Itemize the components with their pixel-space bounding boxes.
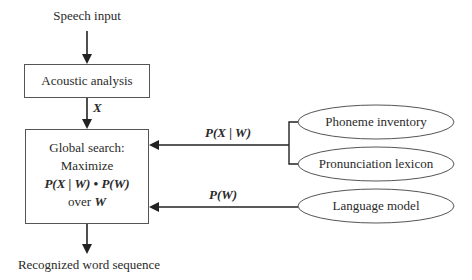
edge-pxw-label: P(X | W) — [205, 125, 251, 141]
edge-x-label: X — [93, 100, 102, 116]
global-search-line1: Global search: — [26, 140, 148, 156]
over-text: over — [68, 194, 91, 209]
acoustic-analysis-box: Acoustic analysis — [24, 64, 150, 98]
edge-pw-label: P(W) — [209, 187, 237, 203]
global-search-box: Global search: Maximize P(X | W) • P(W) … — [25, 129, 149, 224]
global-search-formula: P(X | W) • P(W) — [26, 176, 148, 192]
language-model-label: Language model — [298, 198, 454, 214]
global-search-line2: Maximize — [26, 158, 148, 174]
recognized-word-sequence-label: Recognized word sequence — [14, 257, 164, 273]
phoneme-inventory-label: Phoneme inventory — [298, 114, 454, 130]
pronunciation-lexicon-label: Pronunciation lexicon — [298, 156, 454, 172]
speech-input-label: Speech input — [37, 8, 137, 24]
global-search-line4: over W — [26, 194, 148, 210]
over-variable: W — [94, 194, 106, 209]
acoustic-analysis-label: Acoustic analysis — [25, 73, 149, 89]
